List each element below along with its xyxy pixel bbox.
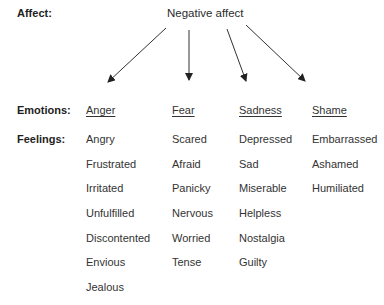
feeling-tense: Tense xyxy=(172,257,201,268)
feeling-unfulfilled: Unfulfilled xyxy=(86,208,134,219)
feeling-depressed: Depressed xyxy=(239,134,292,145)
feeling-scared: Scared xyxy=(172,134,207,145)
feeling-embarrassed: Embarrassed xyxy=(312,134,377,145)
feeling-envious: Envious xyxy=(86,257,125,268)
arrow-to-sadness xyxy=(227,29,246,81)
feeling-worried: Worried xyxy=(172,233,210,244)
feeling-nostalgia: Nostalgia xyxy=(239,233,285,244)
arrow-to-anger xyxy=(108,28,166,82)
feeling-miserable: Miserable xyxy=(239,183,287,194)
emotion-fear: Fear xyxy=(172,105,195,116)
feeling-nervous: Nervous xyxy=(172,208,213,219)
feeling-angry: Angry xyxy=(86,134,115,145)
feeling-jealous: Jealous xyxy=(86,282,124,293)
feeling-sad: Sad xyxy=(239,159,259,170)
feeling-afraid: Afraid xyxy=(172,159,201,170)
emotion-shame: Shame xyxy=(312,105,347,116)
emotion-sadness: Sadness xyxy=(239,105,282,116)
feeling-humiliated: Humiliated xyxy=(312,183,364,194)
feeling-irritated: Irritated xyxy=(86,183,123,194)
arrow-to-shame xyxy=(246,25,305,81)
feeling-frustrated: Frustrated xyxy=(86,159,136,170)
feeling-helpless: Helpless xyxy=(239,208,281,219)
feeling-guilty: Guilty xyxy=(239,257,267,268)
feeling-ashamed: Ashamed xyxy=(312,159,358,170)
emotion-anger: Anger xyxy=(86,105,115,116)
feeling-panicky: Panicky xyxy=(172,183,211,194)
feeling-discontented: Discontented xyxy=(86,233,150,244)
